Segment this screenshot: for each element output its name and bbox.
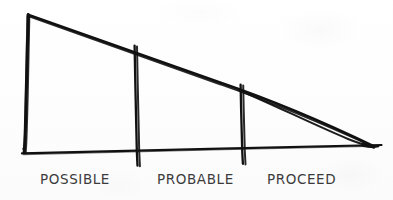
sketch-diagram-canvas: POSSIBLE PROBABLE PROCEED (0, 0, 393, 200)
stage-label-layer: POSSIBLE PROBABLE PROCEED (0, 0, 393, 200)
stage-label-possible: POSSIBLE (40, 173, 110, 187)
stage-label-proceed: PROCEED (267, 173, 336, 187)
stage-label-probable: PROBABLE (157, 173, 234, 187)
